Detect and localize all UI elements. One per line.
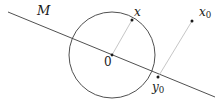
label-point-x0-subscript: 0	[206, 10, 212, 20]
label-point-x0: x0	[199, 6, 211, 20]
point-x0-dot	[191, 20, 194, 23]
label-point-y0-subscript: 0	[159, 85, 165, 95]
projection-segment-y0-to-x0	[158, 21, 192, 77]
point-y0-dot	[157, 76, 160, 79]
radius-segment-center-to-x	[112, 20, 132, 55]
diagram-canvas	[0, 0, 222, 105]
label-point-x: x	[134, 6, 141, 18]
label-circle-center: 0	[104, 56, 112, 68]
label-point-y0-base: y	[152, 80, 159, 94]
label-line-m: M	[37, 4, 50, 17]
label-point-y0: y0	[152, 81, 164, 95]
label-point-x0-base: x	[199, 5, 206, 19]
geometry-diagram: M x x0 y0 0	[0, 0, 222, 105]
